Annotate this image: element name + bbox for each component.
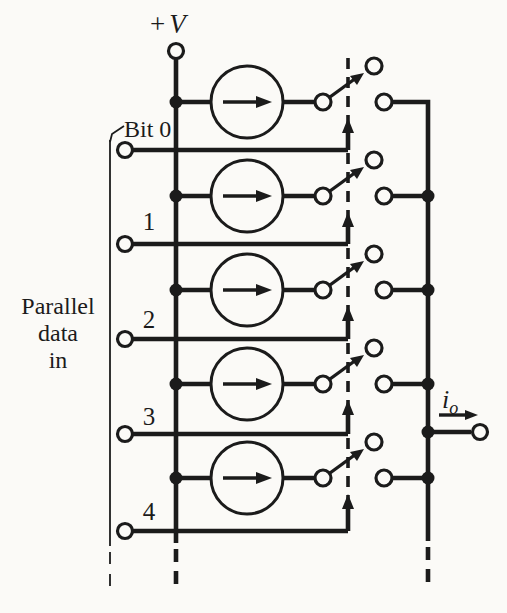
bit-label-1: 1 xyxy=(138,208,160,236)
switch-output-contact xyxy=(376,188,392,204)
junction-dot xyxy=(170,472,183,485)
bracket-hook xyxy=(110,126,124,142)
switch-output-contact xyxy=(376,470,392,486)
parallel-data-label-line1: Parallel xyxy=(14,293,102,320)
output-terminal xyxy=(473,425,488,440)
bit-input-terminal xyxy=(118,143,133,158)
switch-pole-terminal xyxy=(315,188,331,204)
parallel-data-label-line2: data xyxy=(14,320,102,347)
supply-label-sign: + xyxy=(150,9,165,39)
bus-junction-dot xyxy=(422,190,435,203)
bit-input-terminal xyxy=(118,332,133,347)
bit-input-terminal xyxy=(118,427,133,442)
junction-dot xyxy=(170,378,183,391)
supply-terminal xyxy=(169,44,184,59)
bit-label-3: 3 xyxy=(138,403,160,431)
output-current-label: io xyxy=(442,386,458,419)
output-bus xyxy=(392,102,435,586)
switch-pole-terminal xyxy=(315,376,331,392)
supply-label: +V xyxy=(150,10,186,40)
junction-dot xyxy=(170,284,183,297)
switch-upper-contact xyxy=(366,246,382,262)
switch-upper-contact xyxy=(366,152,382,168)
bus-junction-dot xyxy=(422,472,435,485)
bit-input-terminal xyxy=(118,524,133,539)
switch-upper-contact xyxy=(366,340,382,356)
bit-control-arrowhead-icon xyxy=(342,494,354,509)
switch-arm xyxy=(330,266,356,285)
switch-arm xyxy=(330,172,356,191)
switch-output-contact xyxy=(376,376,392,392)
bit-control-arrowhead-icon xyxy=(342,212,354,227)
switch-output-contact xyxy=(376,282,392,298)
switch-arm xyxy=(330,78,356,97)
output-current-subscript: o xyxy=(449,398,458,418)
bit-row-0 xyxy=(118,58,393,158)
supply-label-symbol: V xyxy=(169,9,186,39)
bit-row-4 xyxy=(118,434,427,539)
bit-label-0: Bit 0 xyxy=(124,116,171,142)
parallel-input-bracket xyxy=(110,126,124,588)
bus-junction-dot xyxy=(422,378,435,391)
switch-output-contact xyxy=(376,94,392,110)
parallel-data-label-line3: in xyxy=(14,347,102,374)
output-current-arrowhead-icon xyxy=(465,410,478,420)
switch-pole-terminal xyxy=(315,282,331,298)
switch-pole-terminal xyxy=(315,470,331,486)
junction-dot xyxy=(170,96,183,109)
bit-input-terminal xyxy=(118,237,133,252)
bus-junction-dot xyxy=(422,284,435,297)
switch-upper-contact xyxy=(366,58,382,74)
bit-label-2: 2 xyxy=(138,306,160,334)
bit-row-3 xyxy=(118,340,427,442)
bit-control-arrowhead-icon xyxy=(342,400,354,415)
bit-control-arrowhead-icon xyxy=(342,306,354,321)
bit-row-2 xyxy=(118,246,427,347)
bit-row-1 xyxy=(118,152,427,252)
bit-control-arrowhead-icon xyxy=(342,118,354,133)
bus-junction-dot xyxy=(422,426,435,439)
switch-arm xyxy=(330,360,356,379)
bit-label-4: 4 xyxy=(138,498,160,526)
switch-arm xyxy=(330,454,356,473)
switch-upper-contact xyxy=(366,434,382,450)
switch-pole-terminal xyxy=(315,94,331,110)
junction-dot xyxy=(170,190,183,203)
circuit-figure: +V Bit 0 1 2 3 4 Parallel data in io xyxy=(0,0,507,613)
parallel-data-label: Parallel data in xyxy=(14,293,102,374)
